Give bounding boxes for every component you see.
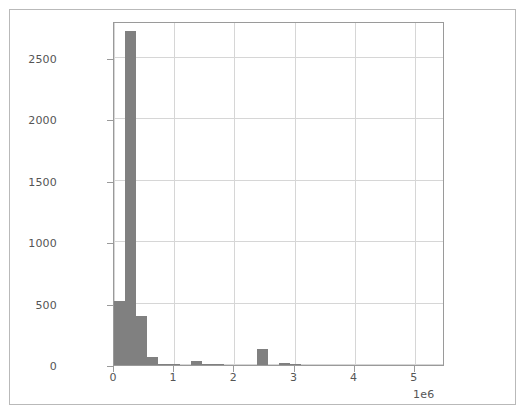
histogram-bar <box>136 316 147 365</box>
histogram-bar <box>191 361 202 365</box>
histogram-bar <box>114 301 125 365</box>
histogram-bar <box>125 31 136 365</box>
y-axis-tick-mark <box>107 59 113 60</box>
y-axis-tick-label: 500 <box>35 298 57 311</box>
gridline-vertical <box>295 23 296 365</box>
histogram-bar <box>213 364 224 365</box>
histogram-bar <box>202 364 213 365</box>
y-axis-tick-mark <box>107 182 113 183</box>
x-axis-tick-label: 5 <box>410 371 417 384</box>
histogram-bar <box>147 357 158 365</box>
gridline-vertical <box>174 23 175 365</box>
gridline-horizontal <box>114 241 443 242</box>
gridline-vertical <box>234 23 235 365</box>
gridline-vertical <box>415 23 416 365</box>
gridline-horizontal <box>114 180 443 181</box>
gridline-horizontal <box>114 57 443 58</box>
x-axis-tick-label: 3 <box>290 371 297 384</box>
gridline-vertical <box>355 23 356 365</box>
histogram-bar <box>290 364 301 365</box>
x-axis-exponent-label: 1e6 <box>413 388 434 401</box>
x-axis-tick-label: 1 <box>170 371 177 384</box>
y-axis-tick-mark <box>107 120 113 121</box>
x-axis-tick-label: 0 <box>109 371 116 384</box>
histogram-bar <box>279 363 290 365</box>
y-axis-tick-label: 2000 <box>28 114 57 127</box>
chart-figure: 05001000150020002500 012345 1e6 <box>0 0 525 414</box>
plot-area <box>113 22 444 366</box>
y-axis-tick-label: 2500 <box>28 52 57 65</box>
y-axis-tick-mark <box>107 243 113 244</box>
gridline-horizontal <box>114 303 443 304</box>
y-axis-tick-label: 1500 <box>28 175 57 188</box>
y-axis-tick-mark <box>107 305 113 306</box>
y-axis-tick-label: 1000 <box>28 237 57 250</box>
x-axis-tick-label: 2 <box>230 371 237 384</box>
histogram-bar <box>257 349 268 365</box>
x-axis-tick-label: 4 <box>350 371 357 384</box>
histogram-bar <box>158 364 169 365</box>
histogram-bar <box>169 364 180 365</box>
y-axis-tick-label: 0 <box>50 360 57 373</box>
gridline-horizontal <box>114 118 443 119</box>
